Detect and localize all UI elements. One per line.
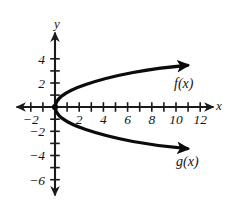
x-tick-label-8: 8 [148,112,155,127]
x-axis: −2 2 4 6 8 10 12 x [17,98,223,127]
y-axis-label: y [52,16,60,31]
y-tick-label-4: 4 [38,52,45,67]
x-tick-label-12: 12 [193,112,207,127]
y-tick-label--4: −4 [29,148,45,163]
x-tick-label-4: 4 [100,112,107,127]
curve-label-f: f(x) [174,76,194,92]
x-tick-label-6: 6 [124,112,131,127]
curve-label-g: g(x) [176,154,199,170]
x-tick-label-10: 10 [169,112,183,127]
graph-figure: −2 2 4 6 8 10 12 x [0,0,236,212]
vertex-point [52,104,58,110]
x-axis-label: x [215,98,222,113]
curve-f [55,65,188,107]
coordinate-plane-svg: −2 2 4 6 8 10 12 x [0,0,236,212]
y-tick-label--6: −6 [29,173,45,188]
y-tick-label--2: −2 [29,124,45,139]
y-tick-label-2: 2 [38,76,45,91]
